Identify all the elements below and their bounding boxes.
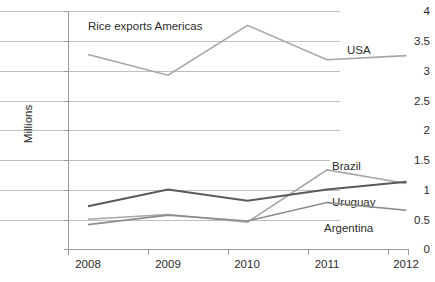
gridline-3 xyxy=(0,71,340,72)
gridline-1_5 xyxy=(0,160,340,161)
y-axis-tick-label: 3 xyxy=(384,66,430,77)
y-axis-tick-label: 0 xyxy=(384,244,430,255)
y-axis-tick-label: 4 xyxy=(384,6,430,17)
y-axis-tick-label: 2 xyxy=(384,125,430,136)
series-label-brazil: Brazil xyxy=(330,160,363,172)
y-tick-mark xyxy=(64,190,68,191)
x-tick-mark xyxy=(408,250,409,255)
x-tick-mark xyxy=(228,250,229,255)
gridline-1 xyxy=(0,190,340,191)
x-axis-tick-label: 2009 xyxy=(128,258,208,270)
y-tick-mark xyxy=(64,11,68,12)
y-tick-mark xyxy=(64,101,68,102)
y-tick-mark xyxy=(64,71,68,72)
x-tick-mark xyxy=(68,250,69,255)
y-tick-mark xyxy=(64,130,68,131)
y-tick-mark xyxy=(64,220,68,221)
y-axis-tick-label: 1.5 xyxy=(384,155,430,166)
gridline-0_5 xyxy=(0,220,340,221)
y-tick-mark xyxy=(64,41,68,42)
x-tick-mark xyxy=(148,250,149,255)
y-axis-line xyxy=(68,11,69,250)
x-axis-line xyxy=(68,249,409,250)
x-axis-tick-label: 2011 xyxy=(287,258,367,270)
gridline-2_5 xyxy=(0,101,340,102)
gridline-3_5 xyxy=(0,41,340,42)
y-axis-title: Millions xyxy=(22,74,34,174)
series-label-usa: USA xyxy=(345,44,373,56)
y-axis-tick-label: 0.5 xyxy=(384,215,430,226)
y-axis-tick-label: 1 xyxy=(384,185,430,196)
gridline-2 xyxy=(0,130,340,131)
x-axis-tick-label: 2010 xyxy=(207,258,287,270)
x-tick-mark xyxy=(388,250,389,255)
series-label-argentina: Argentina xyxy=(322,222,375,234)
y-tick-mark xyxy=(64,160,68,161)
gridline-4 xyxy=(0,11,340,12)
chart-title: Rice exports Americas xyxy=(88,20,202,32)
y-axis-tick-label: 3.5 xyxy=(384,36,430,47)
x-axis-tick-label: 2012 xyxy=(366,258,435,270)
series-label-uruguay: Uruguay xyxy=(330,196,377,208)
x-axis-tick-label: 2008 xyxy=(48,258,128,270)
y-axis-tick-label: 2.5 xyxy=(384,96,430,107)
x-tick-mark xyxy=(308,250,309,255)
